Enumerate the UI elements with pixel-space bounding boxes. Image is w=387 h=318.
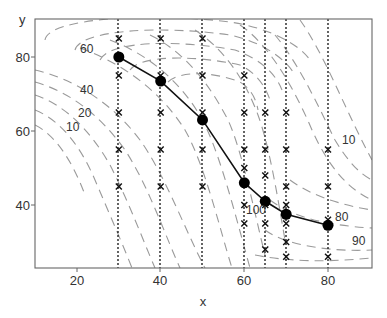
x-marker (241, 221, 247, 227)
x-marker (158, 147, 164, 153)
x-tick-label-20: 20 (70, 273, 84, 288)
optimization-path (119, 57, 328, 225)
x-marker (241, 73, 247, 79)
contour-label-40: 40 (80, 83, 94, 97)
x-marker (116, 184, 122, 190)
contour-label-10-right: 10 (342, 133, 356, 147)
x-marker (283, 221, 289, 227)
x-axis (77, 268, 328, 272)
x-marker (283, 110, 289, 116)
x-axis-label: x (200, 294, 207, 309)
x-marker (116, 36, 122, 42)
x-marker (158, 184, 164, 190)
y-axis (31, 57, 35, 205)
contour-label-90: 90 (352, 234, 366, 248)
contour-label-100: 100 (246, 203, 266, 217)
path-point (113, 52, 124, 63)
x-tick-label-60: 60 (237, 273, 251, 288)
path-points (113, 52, 333, 231)
sample-markers (116, 36, 331, 260)
x-marker (158, 36, 164, 42)
contour-label-20: 20 (78, 106, 92, 120)
x-marker (262, 221, 268, 227)
y-tick-label-60: 60 (16, 124, 30, 139)
contour-label-60: 60 (80, 42, 94, 56)
y-axis-label: y (19, 12, 26, 27)
x-tick-label-40: 40 (153, 273, 167, 288)
x-marker (116, 110, 122, 116)
path-point (155, 76, 166, 87)
path-point (239, 177, 250, 188)
x-tick-label-80: 80 (321, 273, 335, 288)
y-tick-label-80: 80 (16, 50, 30, 65)
contour-label-80: 80 (335, 210, 349, 224)
x-marker (241, 110, 247, 116)
path-point (281, 209, 292, 220)
x-marker (325, 254, 331, 260)
x-marker (262, 110, 268, 116)
x-marker (158, 110, 164, 116)
x-marker (116, 147, 122, 153)
plot-frame (35, 19, 372, 268)
y-tick-label-40: 40 (16, 198, 30, 213)
contour-label-10-left: 10 (66, 120, 80, 134)
sample-lines (118, 19, 328, 268)
contour-chart: 60 40 20 10 10 100 80 90 80 60 40 y 20 4… (0, 0, 387, 318)
x-marker (116, 73, 122, 79)
contour-labels: 60 40 20 10 10 100 80 90 (66, 42, 366, 248)
x-marker (262, 172, 268, 178)
path-point (197, 114, 208, 125)
path-point (323, 220, 334, 231)
